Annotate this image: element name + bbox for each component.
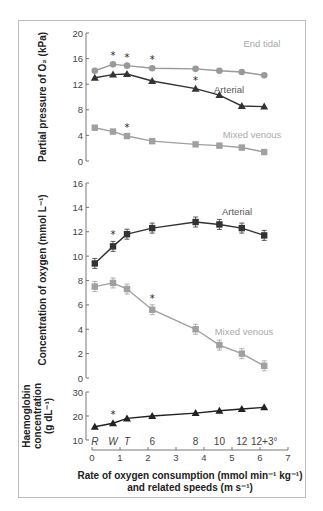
data-point [124,286,130,292]
data-point [149,138,155,144]
series-label: Mixed venous [215,326,274,337]
series-line-haemoglobin [95,407,264,426]
y-tick-label: 0 [78,373,83,384]
data-point [149,225,155,231]
data-point [110,61,117,68]
y-axis-label-line: Haemoglobin [21,384,32,447]
data-point [216,342,222,348]
speed-label: 10 [214,436,226,447]
y-tick-label: 10 [72,251,83,262]
data-point [110,128,116,134]
series-label: End tidal [244,38,281,49]
significance-star: * [125,122,130,133]
series-label: Arterial [222,206,252,217]
data-point [261,363,267,369]
data-point [92,67,99,74]
y-tick-label: 4 [78,130,83,141]
speed-label: W [108,436,119,447]
data-point [216,142,222,148]
y-tick-label: 2 [78,348,83,359]
y-tick-label: 20 [72,28,83,39]
significance-star: * [111,50,116,61]
speed-label: R [91,436,98,447]
data-point [261,149,267,155]
y-tick-label: 20 [72,411,83,422]
data-point [239,225,245,231]
data-point [110,243,116,249]
data-point [124,133,130,139]
y-axis-label: Concentration of oxygen (mmol L⁻¹) [37,194,48,365]
data-point [261,72,268,79]
y-tick-label: 0 [78,156,83,167]
significance-star: * [111,229,116,240]
y-tick-label: 14 [72,202,83,213]
series-label: Arterial [214,84,244,95]
y-tick-label: 8 [78,104,83,115]
data-point [149,65,156,72]
data-point [260,403,268,410]
y-tick-label: 4 [78,324,83,335]
speed-label: 12 [236,436,248,447]
data-point [110,280,116,286]
y-tick-label: 12 [72,226,83,237]
data-point [149,307,155,313]
x-tick-label: 1 [117,452,122,463]
x-tick-label: 0 [89,452,94,463]
x-tick-label: 5 [229,452,234,463]
significance-star: * [150,54,155,65]
y-tick-label: 16 [72,178,83,189]
data-point [92,125,98,131]
x-axis-label-line1: Rate of oxygen consumption (mmol min⁻¹ k… [77,470,302,481]
data-point [124,231,130,237]
y-axis-label-line: concentration [32,383,43,449]
series-label: Mixed venous [223,129,282,140]
data-point [239,69,246,76]
data-point [216,221,222,227]
speed-label: T [124,436,131,447]
y-tick-label: 8 [78,275,83,286]
data-point [216,67,223,74]
x-tick-label: 2 [145,452,150,463]
data-point [192,219,198,225]
data-point [192,141,198,147]
y-axis-label-line: (g dL⁻¹) [43,398,54,434]
speed-label: 12+3° [251,436,278,447]
y-tick-label: 10 [72,435,83,446]
significance-star: * [111,409,116,420]
x-tick-label: 7 [285,452,290,463]
data-point [192,66,199,73]
significance-star: * [125,52,130,63]
y-tick-label: 6 [78,299,83,310]
significance-star: * [193,75,198,86]
y-tick-label: 30 [72,387,83,398]
data-point [192,326,198,332]
x-axis-label-line2: and related speeds (m s⁻¹) [127,482,253,493]
data-point [124,62,131,69]
x-tick-label: 4 [201,452,206,463]
physiology-chart: 048121620Partial pressure of O₂ (kPa)***… [0,0,323,511]
data-point [92,283,98,289]
data-point [92,260,98,266]
y-tick-label: 16 [72,53,83,64]
data-point [239,350,245,356]
data-point [239,144,245,150]
data-point [261,232,267,238]
y-tick-label: 12 [72,79,83,90]
x-tick-label: 3 [173,452,178,463]
figure-frame [19,21,306,498]
speed-label: 8 [193,436,199,447]
significance-star: * [150,293,155,304]
y-axis-label: Partial pressure of O₂ (kPa) [37,32,48,162]
speed-label: 6 [149,436,155,447]
x-tick-label: 6 [257,452,262,463]
